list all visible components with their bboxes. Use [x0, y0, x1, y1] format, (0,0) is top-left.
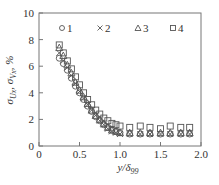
legend-item-2: 2 — [98, 22, 111, 34]
x-tick-label: 2.0 — [194, 148, 208, 160]
x-tick-label: 0 — [36, 148, 42, 160]
y-axis: 0246810 — [23, 7, 43, 152]
series-4 — [56, 42, 192, 132]
legend-label: 4 — [178, 22, 184, 34]
legend-label: 3 — [143, 22, 149, 34]
legend: 1234 — [60, 22, 185, 34]
y-axis-title: σUx, σVx, % — [3, 56, 18, 105]
y-tick-label: 4 — [29, 87, 35, 99]
y-tick-label: 2 — [29, 113, 35, 125]
square-marker — [167, 123, 173, 129]
plot-area-border — [39, 13, 201, 146]
circle-icon — [60, 26, 65, 31]
y-tick-label: 6 — [29, 60, 35, 72]
y-tick-label: 8 — [29, 34, 35, 46]
x-tick-label: 1.0 — [113, 148, 127, 160]
cross-icon — [98, 26, 103, 31]
plot-frame — [39, 13, 201, 146]
x-tick-label: 1.5 — [154, 148, 168, 160]
y-tick-label: 10 — [23, 7, 35, 19]
legend-label: 1 — [67, 22, 73, 34]
series-3 — [56, 44, 193, 136]
square-marker — [137, 123, 143, 129]
legend-item-3: 3 — [135, 22, 149, 34]
data-points — [56, 42, 193, 137]
series-1 — [56, 55, 192, 137]
x-tick-label: 0.5 — [73, 148, 87, 160]
legend-item-1: 1 — [60, 22, 73, 34]
triangle-icon — [135, 25, 141, 31]
x-axis-title: y/δ99 — [116, 161, 138, 176]
legend-item-4: 4 — [171, 22, 185, 34]
scatter-chart: 00.51.01.52.0 0246810 1234 y/δ99σUx, σVx… — [0, 0, 219, 185]
legend-label: 2 — [105, 22, 111, 34]
x-axis: 00.51.01.52.0 — [36, 142, 208, 160]
y-tick-label: 0 — [29, 140, 35, 152]
square-icon — [171, 26, 176, 31]
